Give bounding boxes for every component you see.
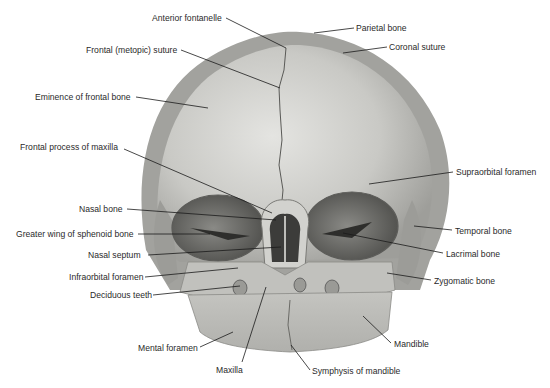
- label-eminence-of-frontal-bone: Eminence of frontal bone: [35, 92, 131, 102]
- label-greater-wing-of-sphenoid: Greater wing of sphenoid bone: [16, 229, 134, 239]
- label-symphysis-of-mandible: Symphysis of mandible: [312, 366, 400, 376]
- skull-diagram: Anterior fontanelle Frontal (metopic) su…: [0, 0, 550, 388]
- label-infraorbital-foramen: Infraorbital foramen: [69, 272, 144, 282]
- label-anterior-fontanelle: Anterior fontanelle: [152, 13, 222, 23]
- label-lacrimal-bone: Lacrimal bone: [446, 249, 500, 259]
- label-deciduous-teeth: Deciduous teeth: [90, 290, 152, 300]
- label-nasal-bone: Nasal bone: [79, 204, 122, 214]
- label-maxilla: Maxilla: [216, 365, 243, 375]
- label-mental-foramen: Mental foramen: [138, 343, 198, 353]
- label-frontal-metopic-suture: Frontal (metopic) suture: [86, 45, 177, 55]
- label-temporal-bone: Temporal bone: [455, 226, 512, 236]
- label-parietal-bone: Parietal bone: [356, 23, 407, 33]
- label-frontal-process-of-maxilla: Frontal process of maxilla: [20, 142, 118, 152]
- label-supraorbital-foramen: Supraorbital foramen: [456, 167, 536, 177]
- label-mandible: Mandible: [394, 339, 429, 349]
- label-coronal-suture: Coronal suture: [389, 42, 445, 52]
- label-nasal-septum: Nasal septum: [88, 250, 141, 260]
- label-zygomatic-bone: Zygomatic bone: [434, 276, 495, 286]
- right-orbit: [306, 192, 398, 260]
- skull-illustration: [0, 0, 550, 388]
